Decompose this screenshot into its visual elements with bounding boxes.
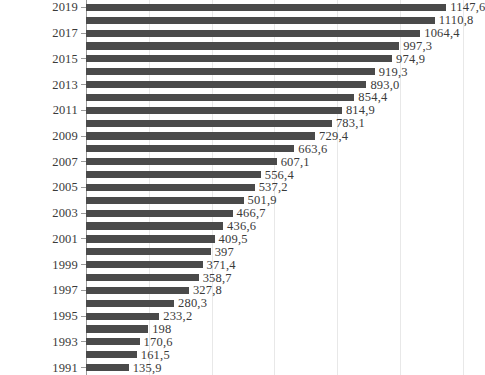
- bar-row: 20191147,6: [0, 1, 424, 14]
- bar: [86, 313, 159, 320]
- bar: [86, 248, 211, 255]
- bar: [86, 42, 399, 49]
- bar-row: 2003466,7: [0, 207, 424, 220]
- bar: [86, 171, 261, 178]
- bar-row: 1991135,9: [0, 361, 424, 374]
- bar-row: 1995233,2: [0, 310, 424, 323]
- bar: [86, 81, 366, 88]
- bar-row: 20171064,4: [0, 27, 424, 40]
- bar-row: 2009729,4: [0, 130, 424, 143]
- bar: [86, 338, 140, 345]
- bar: [86, 145, 294, 152]
- bar-row: 2015974,9: [0, 52, 424, 65]
- bar-value-label: 135,9: [133, 360, 162, 375]
- bar-row: 1997327,8: [0, 284, 424, 297]
- bar: [86, 30, 420, 37]
- bar: [86, 300, 174, 307]
- bar: [86, 274, 199, 281]
- bar: [86, 17, 435, 24]
- bar: [86, 197, 244, 204]
- bar: [86, 184, 255, 191]
- y-axis-label: 1991: [0, 360, 78, 375]
- bar: [86, 4, 446, 11]
- bar: [86, 132, 315, 139]
- bar-row: 2001409,5: [0, 233, 424, 246]
- bar: [86, 55, 392, 62]
- bar: [86, 94, 354, 101]
- bar: [86, 120, 332, 127]
- bar-row: 1993170,6: [0, 335, 424, 348]
- bar-row: 2007607,1: [0, 155, 424, 168]
- bar: [86, 287, 189, 294]
- bar: [86, 364, 129, 371]
- bar: [86, 325, 148, 332]
- gridline-1200: [463, 0, 464, 375]
- bar-row: 2005537,2: [0, 181, 424, 194]
- bar: [86, 107, 342, 114]
- bar: [86, 235, 215, 242]
- bar: [86, 210, 233, 217]
- bar: [86, 261, 203, 268]
- bar: [86, 158, 277, 165]
- bar: [86, 222, 223, 229]
- bar: [86, 351, 137, 358]
- bar: [86, 68, 375, 75]
